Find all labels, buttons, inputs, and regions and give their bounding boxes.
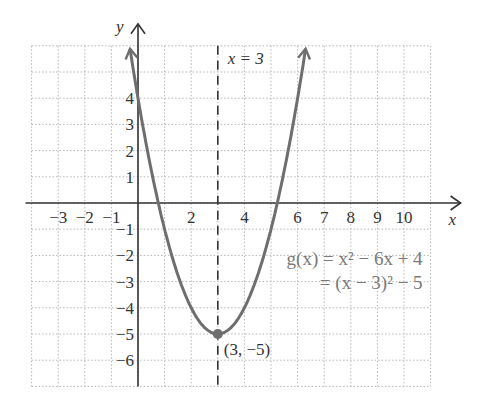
y-tick-label: −4 (116, 299, 135, 318)
x-tick-label: 8 (347, 208, 356, 227)
x-axis-label: x (448, 210, 457, 229)
y-tick-label: −6 (116, 351, 134, 370)
x-tick-label: −3 (49, 208, 67, 227)
x-tick-label: 2 (187, 208, 196, 227)
y-tick-label: 4 (126, 89, 135, 108)
y-tick-label: 3 (126, 115, 135, 134)
parabola-chart: −3−2−1246789104321−1−2−3−4−5−6 x = 3 (3,… (0, 0, 484, 400)
x-tick-label: 9 (373, 208, 382, 227)
y-tick-label: 2 (126, 142, 135, 161)
equation-line-2: = (x − 3)² − 5 (320, 272, 423, 294)
x-tick-label: 10 (396, 208, 413, 227)
y-axis-label: y (114, 17, 124, 36)
axes (26, 24, 461, 387)
axis-of-symmetry-label: x = 3 (227, 49, 264, 68)
vertex-label: (3, −5) (224, 340, 270, 359)
x-tick-label: 7 (320, 208, 329, 227)
y-tick-label: −2 (116, 246, 134, 265)
y-tick-label: 1 (126, 168, 135, 187)
y-tick-label: −3 (116, 273, 134, 292)
equation-line-1: g(x) = x² − 6x + 4 (287, 248, 423, 270)
x-tick-label: 6 (293, 208, 302, 227)
x-tick-label: 4 (240, 208, 249, 227)
y-tick-label: −1 (116, 220, 134, 239)
x-tick-label: −2 (76, 208, 94, 227)
y-tick-label: −5 (116, 325, 134, 344)
vertex-point (213, 329, 223, 339)
